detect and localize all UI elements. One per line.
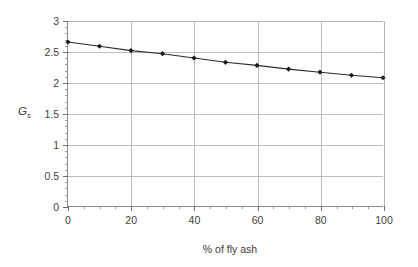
x-tick-minor bbox=[337, 206, 338, 209]
x-tick-major bbox=[384, 206, 385, 211]
plot-area: 00.511.522.53 020406080100 bbox=[67, 21, 383, 207]
x-tick-label: 0 bbox=[65, 215, 71, 226]
x-tick-minor bbox=[289, 206, 290, 209]
data-series-layer bbox=[68, 21, 383, 206]
x-axis-title: % of fly ash bbox=[0, 243, 418, 255]
x-tick-label: 100 bbox=[375, 215, 393, 226]
y-axis-title-subscript: s bbox=[27, 111, 31, 120]
data-point-marker bbox=[223, 60, 228, 65]
x-tick-minor bbox=[115, 206, 116, 209]
data-point-marker bbox=[317, 70, 322, 75]
data-point-marker bbox=[128, 48, 133, 53]
x-tick-minor bbox=[273, 206, 274, 209]
y-tick-label: 3 bbox=[53, 16, 59, 27]
x-tick-major bbox=[131, 206, 132, 211]
y-tick-label: 2.5 bbox=[44, 47, 59, 58]
x-tick-major bbox=[321, 206, 322, 211]
data-point-marker bbox=[97, 44, 102, 49]
x-tick-major bbox=[68, 206, 69, 211]
x-tick-label: 20 bbox=[125, 215, 137, 226]
x-tick-label: 60 bbox=[252, 215, 264, 226]
x-tick-major bbox=[194, 206, 195, 211]
x-tick-minor bbox=[147, 206, 148, 209]
y-axis-title: Gs bbox=[18, 105, 31, 120]
x-tick-minor bbox=[226, 206, 227, 209]
data-point-marker bbox=[349, 73, 354, 78]
data-point-marker bbox=[191, 55, 196, 60]
x-tick-minor bbox=[368, 206, 369, 209]
y-tick-label: 2 bbox=[53, 78, 59, 89]
x-tick-minor bbox=[179, 206, 180, 209]
x-tick-minor bbox=[84, 206, 85, 209]
data-point-marker bbox=[254, 63, 259, 68]
x-tick-major bbox=[258, 206, 259, 211]
data-point-marker bbox=[286, 67, 291, 72]
y-tick-label: 1 bbox=[53, 140, 59, 151]
data-point-marker bbox=[160, 51, 165, 56]
x-tick-minor bbox=[100, 206, 101, 209]
x-tick-minor bbox=[352, 206, 353, 209]
y-tick-label: 1.5 bbox=[44, 109, 59, 120]
x-tick-minor bbox=[210, 206, 211, 209]
gridline-vertical bbox=[384, 21, 385, 206]
x-tick-label: 80 bbox=[315, 215, 327, 226]
y-axis-title-text: G bbox=[18, 105, 27, 117]
y-tick-label: 0 bbox=[53, 202, 59, 213]
x-tick-minor bbox=[305, 206, 306, 209]
y-tick-label: 0.5 bbox=[44, 171, 59, 182]
x-tick-minor bbox=[242, 206, 243, 209]
x-tick-label: 40 bbox=[189, 215, 201, 226]
x-tick-minor bbox=[163, 206, 164, 209]
chart-figure: Gs 00.511.522.53 020406080100 % of fly a… bbox=[0, 0, 418, 267]
